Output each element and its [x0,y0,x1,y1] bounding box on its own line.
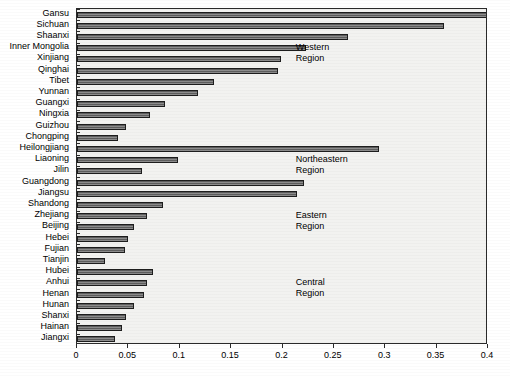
region-annotation-line1: Northeastern [296,154,348,165]
y-axis-label-hunan: Hunan [42,300,69,309]
bar-chart: GansuSichuanShaanxiInner MongoliaXinjian… [0,0,510,377]
bar-shaanxi [77,34,348,40]
y-axis-tick [77,143,80,144]
y-axis-label-hainan: Hainan [40,322,69,331]
x-axis-tick-label: 0.3 [378,350,391,360]
x-axis-tick [384,344,385,348]
bar-ningxia [77,112,150,118]
bar-henan [77,292,144,298]
y-axis-label-fujian: Fujian [44,244,69,253]
x-axis-tick-label: 0.4 [481,350,494,360]
region-annotation-line2: Region [296,53,329,64]
y-axis-tick [77,177,80,178]
bar-beijing [77,224,134,230]
y-axis-tick [77,311,80,312]
y-axis-tick [77,99,80,100]
y-axis-tick [77,278,80,279]
y-axis-tick [77,110,80,111]
bar-jiangxi [77,336,115,342]
y-axis-label-gansu: Gansu [42,9,69,18]
x-axis-tick [230,344,231,348]
y-axis-tick [77,155,80,156]
bar-shandong [77,202,163,208]
y-axis-tick [77,222,80,223]
y-axis-tick [77,199,80,200]
y-axis-label-tibet: Tibet [49,76,69,85]
bar-hainan [77,325,122,331]
y-axis-tick [77,132,80,133]
y-axis-tick [77,121,80,122]
bar-jilin [77,168,142,174]
y-axis-tick [77,65,80,66]
bar-inner-mongolia [77,45,306,51]
plot-area: WesternRegionNortheasternRegionEasternRe… [76,8,487,344]
y-axis-label-beijing: Beijing [42,221,69,230]
y-axis-tick [77,334,80,335]
y-axis-label-heilongjiang: Heilongjiang [19,143,69,152]
bar-guizhou [77,124,126,130]
y-axis-tick [77,87,80,88]
y-axis-label-jiangxi: Jiangxi [41,333,69,342]
region-annotation-line2: Region [296,165,348,176]
y-axis-label-jiangsu: Jiangsu [38,188,69,197]
y-axis-tick [77,211,80,212]
bar-yunnan [77,90,198,96]
region-annotation-northeastern: NortheasternRegion [296,154,348,176]
y-axis-tick [77,43,80,44]
y-axis-label-henan: Henan [42,289,69,298]
x-axis-tick-label: 0.2 [275,350,288,360]
y-axis-label-shaanxi: Shaanxi [36,31,69,40]
bar-xinjiang [77,56,281,62]
y-axis-tick [77,54,80,55]
bar-gansu [77,12,487,18]
x-axis-tick [127,344,128,348]
bar-hebei [77,236,128,242]
y-axis-label-zhejiang: Zhejiang [34,210,69,219]
bar-guangdong [77,180,304,186]
x-axis-tick-label: 0 [73,350,78,360]
bar-zhejiang [77,213,147,219]
bar-anhui [77,280,147,286]
y-axis-label-shanxi: Shanxi [41,311,69,320]
y-axis-tick [77,244,80,245]
y-axis-label-inner-mongolia: Inner Mongolia [9,42,69,51]
x-axis-tick-label: 0.1 [172,350,185,360]
bar-hunan [77,303,134,309]
y-axis-label-qinghai: Qinghai [38,65,69,74]
bar-guangxi [77,101,165,107]
y-axis-tick [77,300,80,301]
bar-heilongjiang [77,146,379,152]
y-axis-tick [77,166,80,167]
y-axis-label-guizhou: Guizhou [35,121,69,130]
y-axis-tick [77,267,80,268]
y-axis-label-anhui: Anhui [46,277,69,286]
y-axis-label-hebei: Hebei [45,233,69,242]
region-annotation-central: CentralRegion [296,277,325,299]
bar-chongping [77,135,118,141]
chart-title [0,0,510,5]
region-annotation-line2: Region [296,221,327,232]
y-axis-label-guangxi: Guangxi [35,98,69,107]
x-axis-tick [179,344,180,348]
region-annotation-line1: Central [296,277,325,288]
x-axis-tick-label: 0.05 [119,350,137,360]
y-axis-tick [77,289,80,290]
y-axis-label-xinjiang: Xinjiang [37,53,69,62]
y-axis-tick [77,255,80,256]
x-axis-tick-label: 0.25 [324,350,342,360]
x-axis-tick-label: 0.15 [221,350,239,360]
bar-sichuan [77,23,444,29]
y-axis-label-ningxia: Ningxia [39,109,69,118]
y-axis-label-yunnan: Yunnan [38,87,69,96]
y-axis-tick [77,188,80,189]
y-axis-label-guangdong: Guangdong [22,177,69,186]
y-axis-label-sichuan: Sichuan [36,20,69,29]
x-axis: 00.050.10.150.20.250.30.350.4 [76,344,487,370]
x-axis-tick [487,344,488,348]
y-axis-tick [77,9,80,10]
y-axis-tick [77,233,80,234]
bar-hubei [77,269,153,275]
y-axis-label-hubei: Hubei [45,266,69,275]
bar-jiangsu [77,191,297,197]
bar-shanxi [77,314,126,320]
